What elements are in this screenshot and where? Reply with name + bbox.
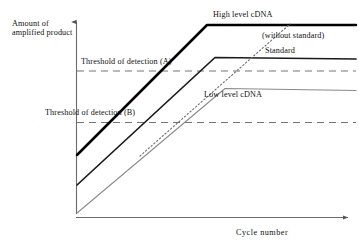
threshold-b-label: Threshold of detection (B): [45, 108, 135, 117]
without-standard-label: (without standard): [262, 31, 324, 40]
low-level-cdna-label: Low level cDNA: [204, 90, 262, 99]
threshold-a-label: Threshold of detection (A): [81, 57, 172, 66]
y-axis-label-line1: Amount of: [12, 19, 49, 28]
pcr-amplification-figure: Amount ofamplified product Cycle number …: [0, 0, 359, 252]
axis-group: [76, 22, 348, 218]
y-axis-label-line2: amplified product: [12, 28, 72, 37]
curve-standard: [77, 58, 356, 186]
y-axis-label: Amount ofamplified product: [12, 19, 74, 38]
x-axis-label: Cycle number: [236, 228, 288, 237]
standard-label: Standard: [265, 46, 295, 55]
high-level-cdna-label: High level cDNA: [213, 10, 273, 19]
